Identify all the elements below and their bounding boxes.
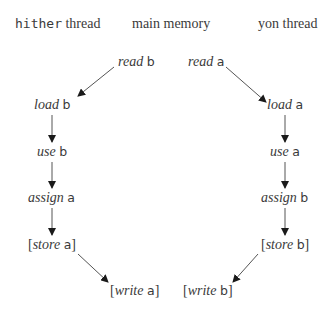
arrow-store-b-to-write-b	[233, 254, 258, 282]
arrow-read-a-to-load-a	[226, 67, 266, 102]
thread-memory-diagram: hither thread main memory yon thread rea…	[0, 0, 329, 315]
arrow-read-b-to-load-b	[78, 67, 114, 96]
arrow-store-a-to-write-a	[78, 254, 108, 282]
edge-layer	[0, 0, 329, 315]
